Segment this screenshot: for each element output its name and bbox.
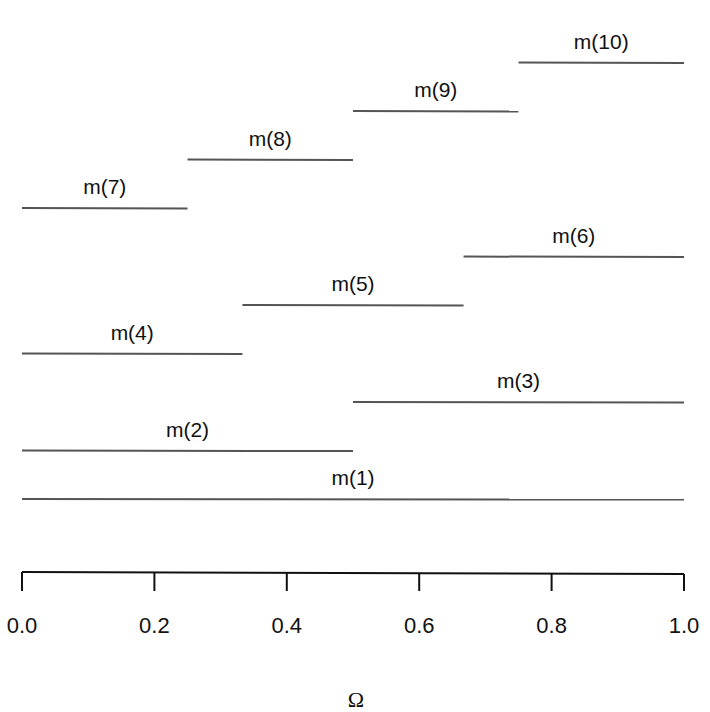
- segment-label: m(7): [83, 175, 126, 198]
- segments-group: m(1)m(2)m(3)m(4)m(5)m(6)m(7)m(8)m(9)m(10…: [22, 30, 684, 500]
- tick-label: 1.0: [669, 613, 700, 638]
- segment-label: m(2): [166, 418, 209, 441]
- segment-line: [22, 499, 684, 500]
- segment-line: [22, 354, 242, 355]
- tick-label: 0.0: [7, 613, 38, 638]
- interval-figure: m(1)m(2)m(3)m(4)m(5)m(6)m(7)m(8)m(9)m(10…: [0, 0, 710, 712]
- segment-label: m(5): [331, 272, 374, 295]
- tick-label: 0.2: [139, 613, 170, 638]
- segment-line: [519, 63, 685, 64]
- segment-label: m(3): [497, 369, 540, 392]
- segment-label: m(9): [414, 78, 457, 101]
- segment-label: m(6): [552, 224, 595, 247]
- segment-label: m(10): [574, 30, 629, 53]
- segment-label: m(8): [249, 127, 292, 150]
- axis-line: [22, 572, 684, 574]
- segment-line: [22, 208, 188, 209]
- segment-line: [353, 111, 519, 112]
- segment-label: m(1): [331, 466, 374, 489]
- x-axis-title: Ω: [348, 687, 364, 712]
- tick-label: 0.6: [404, 613, 435, 638]
- segment-label: m(4): [111, 321, 154, 344]
- segment-line: [464, 257, 684, 258]
- segment-line: [353, 402, 684, 403]
- segment-line: [188, 160, 354, 161]
- tick-label: 0.8: [536, 613, 567, 638]
- segment-line: [242, 305, 463, 306]
- segment-line: [22, 451, 353, 452]
- tick-label: 0.4: [272, 613, 303, 638]
- x-axis: 0.00.20.40.60.81.0: [7, 572, 700, 638]
